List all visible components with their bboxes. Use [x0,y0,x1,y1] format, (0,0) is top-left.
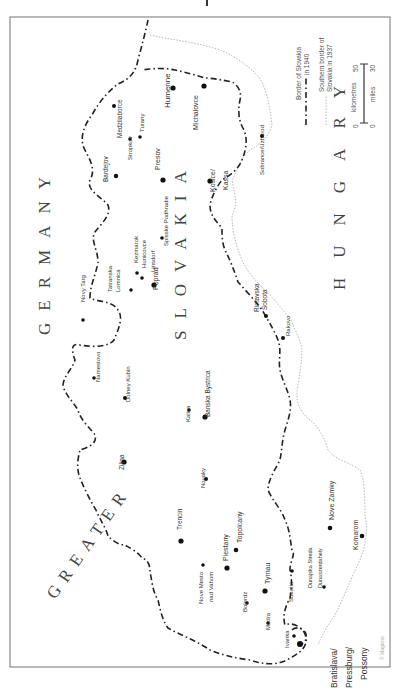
city-dot-icon [114,174,118,178]
city-bardejov: Bardejov [102,156,118,182]
city-dot-icon [262,588,267,593]
city-label: Sobota [261,289,268,310]
city-label: Dolney Kubin [125,366,131,402]
city-trencin: Trencin [176,508,184,543]
city-label: Dunajska Streda [307,546,313,588]
city-label: Stropkov [127,136,133,160]
city-markers: BardejovMedzilaborceStropkovTuranyHumenn… [80,73,369,688]
city-label: Turany [139,114,145,132]
city-rakovo: Rakovo [281,315,291,340]
city-hunicovce: Hunicovce [140,239,147,279]
city-label: Lomnica [115,269,121,292]
city-piestany: Piestany [222,534,230,571]
city-novy-targ: Novy Targ [80,275,86,322]
city-poprad: Poprad [151,267,160,290]
city-label: Trencin [176,508,183,530]
country-label-greater: GREATER [43,483,135,602]
scale-km-label: kilometres [350,82,357,112]
city-label: Nove Zamky [328,480,336,520]
map-credit: © Magocsi [379,636,385,660]
city-kezmarok: Kezmarok [133,235,139,275]
city-label: Novy Targ [80,275,86,302]
city-label: nad Vahom [208,572,214,602]
city-lomnica: Lomnica [115,269,121,292]
city-label: Bardejov [102,156,110,182]
city-dot-icon [224,565,229,570]
country-label-germany: GERMANY [35,165,54,335]
city-label: Kassa [222,170,229,190]
city-label: Bratislava/ [329,648,339,688]
city-nove-zamky: Nove Zamky [328,480,336,530]
city-dolney-kubin: Dolney Kubin [123,366,131,402]
city-dot-icon [129,288,133,292]
city-spisske-podhradie: Spisske Podhradie [160,195,169,246]
city-presov: Presov [154,148,166,183]
city-ivanka: Ivanka [284,630,296,648]
city-modra: Modra [265,612,271,630]
country-label-hungary: HUNGARY [330,66,349,290]
city-label: Possony [359,647,369,680]
city-label: Namestovo [95,351,101,382]
city-zilina: Zilina [118,454,127,470]
country-label-slovakia: SLOVAKIA [171,159,190,340]
legend-border-1937-line2: Slovakia in 1937 [326,44,333,92]
city-dot-icon [290,569,294,573]
city-medzilaborce: Medzilaborce [112,99,123,138]
city-topolcany: Topolcany [234,511,244,552]
city-sobotia: Sobotia [288,569,294,602]
city-dot-icon [81,318,85,322]
city-dot-icon [328,526,333,531]
city-label: Ivanka [284,630,290,648]
city-namestovo: Namestovo [92,351,101,382]
city-dot-icon [297,641,303,647]
city-dot-icon [360,534,365,539]
city-dot-icon [140,276,144,280]
city-label: Poprad [152,267,160,290]
city-label: Dunaszerdahely [317,548,323,588]
city-dunaszerdahely: Dunaszerdahely [317,548,323,588]
city-tyrnau: Tyrnau [262,562,272,593]
city-label: Sobrance/Uzhorod [259,125,265,175]
scale-km-end: 50 [352,64,359,72]
city-banska-bystrica: Banska Bystrica [202,370,212,420]
city-nove-mesto: Nove Mesto [198,563,205,604]
city-label: Novaky [200,468,206,488]
city-label: Pressburg/ [344,646,354,688]
city-label: Kezmarok [133,235,139,263]
city-label: Hunicovce [141,239,147,268]
city-dot-icon [178,538,183,543]
city-label: Michalovce [192,95,199,130]
city-label: Modra [265,612,271,630]
city-dot-icon [160,177,165,182]
city-label: Tatranska [107,265,113,292]
city-dot-icon [264,314,268,318]
city-michalovce: Michalovce [192,83,207,130]
city-dot-icon [138,135,142,139]
legend-border-1937-line1: Southern border of [318,38,325,92]
city-dot-icon [201,563,205,567]
scale-mi-end: 30 [369,64,376,72]
scale-mi-start: 0 [369,124,376,128]
city-pressburg: Pressburg/ [344,646,354,688]
city-nad-vahom: nad Vahom [208,572,214,602]
country-labels: GREATERGERMANYSLOVAKIAHUNGARY [35,66,349,602]
city-label: Piestany [222,534,230,561]
slovakia-1940-map: GREATERGERMANYSLOVAKIAHUNGARY BardejovMe… [0,0,396,698]
city-dot-icon [135,271,139,275]
city-bolerdz: Bolerdz [242,592,249,612]
city-komarom: Komarom [352,519,364,550]
city-kalisa: Kalisa [185,405,191,422]
city-label: Sobotia [288,581,294,602]
city-label: Rimavska [253,283,260,312]
city-humenne: Humenne [163,73,176,108]
city-label: Tyrnau [264,562,272,584]
city-label: Kalisa [185,405,191,422]
city-label: Topolcany [236,511,244,543]
city-dot-icon [292,634,296,638]
city-rimavska: Rimavska [253,283,260,312]
city-stropkov: Stropkov [127,136,133,160]
city-sobrance-uzhorod: Sobrance/Uzhorod [259,125,265,175]
city-label: Nove Mesto [198,571,204,604]
city-turany: Turany [138,114,145,139]
legend-border-1940-line1: Border of Slovakia [295,47,302,100]
